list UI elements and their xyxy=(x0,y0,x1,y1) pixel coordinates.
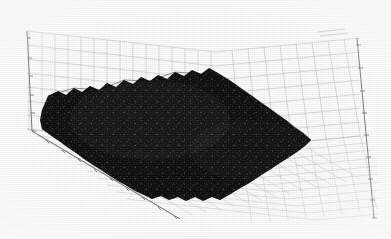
surface-plot-figure xyxy=(0,0,391,239)
top-right-leader-lines xyxy=(318,29,348,36)
plot-canvas xyxy=(0,0,391,239)
left-vertical-axis xyxy=(27,31,32,131)
right-vertical-axis xyxy=(357,38,374,218)
